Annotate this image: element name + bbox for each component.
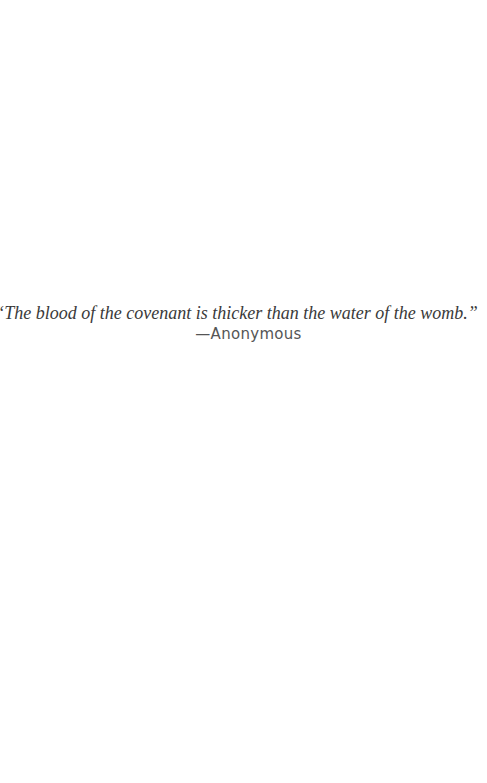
- epigraph-attribution: —Anonymous: [10, 324, 487, 344]
- epigraph: “The blood of the covenant is thicker th…: [0, 302, 487, 344]
- epigraph-quote: “The blood of the covenant is thicker th…: [0, 302, 487, 324]
